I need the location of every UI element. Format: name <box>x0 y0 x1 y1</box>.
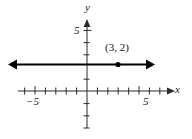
x-axis-tick-label-5: 5 <box>143 96 149 107</box>
line-left-arrowhead <box>8 60 17 70</box>
graph-canvas <box>0 0 192 139</box>
x-axis-tick-label-negative-5: −5 <box>26 96 39 107</box>
y-axis-tick-label-5: 5 <box>74 25 80 36</box>
point-coordinate-label: (3, 2) <box>105 42 129 53</box>
y-axis-label: y <box>85 2 90 13</box>
x-axis-label: x <box>175 84 180 95</box>
data-point-3-2 <box>115 62 120 67</box>
x-axis-arrowhead <box>167 88 175 95</box>
y-axis-group <box>84 19 92 128</box>
x-axis-ticks <box>25 86 160 95</box>
line-right-arrowhead <box>146 60 155 70</box>
coordinate-graph-figure: y x 5 5 −5 (3, 2) <box>0 0 192 139</box>
y-axis-arrowhead <box>84 19 91 27</box>
x-axis-group <box>18 86 175 95</box>
plotted-line-y-equals-2 <box>8 60 155 70</box>
